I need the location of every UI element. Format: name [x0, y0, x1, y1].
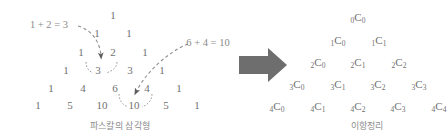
binomial-r: 1: [383, 39, 387, 48]
binomial-r: 0: [322, 61, 326, 70]
binomial-r: 2: [382, 83, 386, 92]
binomial-r: 1: [362, 61, 366, 70]
binomial-cell: 4C4: [432, 101, 447, 114]
binomial-cell: 4C3: [391, 101, 406, 114]
binomial-r: 2: [362, 105, 366, 114]
binomial-n: 1: [372, 39, 376, 48]
binomial-cell: 0C0: [351, 12, 366, 25]
binomial-n: 4: [351, 105, 355, 114]
binomial-cell: 2C2: [392, 57, 407, 70]
binomial-n: 4: [432, 105, 436, 114]
binomial-n: 3: [331, 83, 335, 92]
binomial-r: 3: [423, 83, 427, 92]
binomial-cell: 3C2: [371, 79, 386, 92]
binomial-n: 3: [290, 83, 294, 92]
binomial-r: 1: [322, 105, 326, 114]
binomial-r: 3: [402, 105, 406, 114]
binomial-r: 0: [362, 16, 366, 25]
binomial-cell: 3C0: [290, 79, 305, 92]
binomial-cell: 2C1: [351, 57, 366, 70]
binomial-r: 2: [403, 61, 407, 70]
binomial-cell: 4C1: [311, 101, 326, 114]
binomial-cell: 1C0: [331, 35, 346, 48]
binomial-cell: 2C0: [311, 57, 326, 70]
right-panel-caption: 이항정리: [351, 122, 384, 131]
binomial-r: 1: [342, 83, 346, 92]
binomial-n: 1: [331, 39, 335, 48]
binomial-n: 2: [392, 61, 396, 70]
binomial-n: 4: [391, 105, 395, 114]
binomial-n: 3: [371, 83, 375, 92]
binomial-cell: 1C1: [372, 35, 387, 48]
binomial-cell: 3C1: [331, 79, 346, 92]
binomial-cell: 4C2: [351, 101, 366, 114]
binomial-r: 4: [443, 105, 447, 114]
binomial-n: 4: [311, 105, 315, 114]
binomial-n: 2: [311, 61, 315, 70]
binomial-cell: 3C3: [412, 79, 427, 92]
binomial-r: 0: [342, 39, 346, 48]
binomial-n: 4: [270, 105, 274, 114]
binomial-n: 3: [412, 83, 416, 92]
binomial-n: 0: [351, 16, 355, 25]
binomial-n: 2: [351, 61, 355, 70]
right-panel: 0C0 1C0 1C1 2C0 2C1 2C2 3C0 3C1 3C2 3C3 …: [0, 0, 448, 139]
pascal-triangle-binomial-diagram: 1 + 2 = 3 6 + 4 = 10 1 1 1 1 2 1 1 3 3 1…: [0, 0, 448, 139]
binomial-r: 0: [281, 105, 285, 114]
binomial-cell: 4C0: [270, 101, 285, 114]
binomial-r: 0: [301, 83, 305, 92]
